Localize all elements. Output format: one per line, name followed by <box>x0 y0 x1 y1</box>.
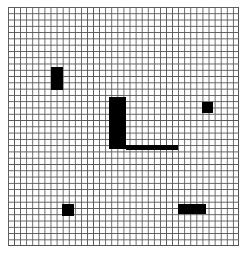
block-l-vertical <box>109 97 126 149</box>
block-vertical-left <box>51 67 63 90</box>
block-square-right <box>202 102 213 113</box>
block-square-bottom-left <box>62 204 74 216</box>
block-bar-bottom-right <box>178 204 206 214</box>
block-l-horizontal <box>126 145 178 150</box>
